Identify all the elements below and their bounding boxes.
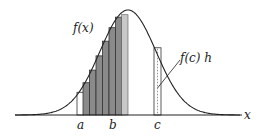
strip-at-c	[154, 48, 161, 115]
diagram-canvas	[0, 0, 267, 136]
riemann-rectangle	[109, 28, 116, 115]
label-fx: f(x)	[73, 22, 94, 34]
label-x-axis: x	[244, 109, 251, 121]
riemann-rectangle	[116, 17, 123, 115]
riemann-rectangle	[122, 15, 129, 115]
riemann-rectangle	[83, 83, 90, 115]
riemann-rectangle	[77, 92, 84, 115]
label-c: c	[154, 119, 161, 131]
riemann-rectangle	[96, 56, 103, 115]
label-b: b	[109, 119, 117, 131]
riemann-sum-diagram: f(x) f(c) h a b c x	[0, 0, 267, 136]
riemann-rectangle	[90, 70, 97, 115]
riemann-rectangle	[103, 41, 110, 115]
label-a: a	[77, 119, 84, 131]
label-fch: f(c) h	[180, 52, 212, 64]
